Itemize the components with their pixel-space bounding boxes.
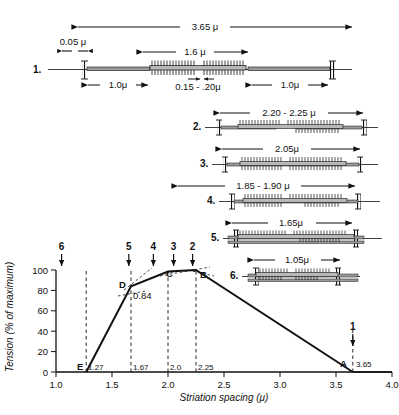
thick-filament-6 — [256, 269, 338, 281]
svg-text:3.5: 3.5 — [329, 379, 342, 390]
guide-value-127: 1.27 — [88, 363, 104, 372]
diagram-index-1: 1. — [33, 64, 42, 75]
dim-label-total-1: 3.65 μ — [192, 21, 219, 32]
x-tick-labels: 1.0 1.5 2.0 2.5 3.0 3.5 4.0 — [49, 379, 398, 390]
guide-value-200: 2.0 — [170, 363, 182, 372]
diagram-index-5: 5. — [211, 232, 220, 243]
svg-text:3: 3 — [171, 241, 177, 252]
svg-text:6: 6 — [59, 241, 65, 252]
sarcomere-diagram-1: 3.65 μ 0.05 μ 1.6 μ 1. — [33, 19, 352, 92]
point-value-D: 0.84 — [133, 290, 152, 301]
svg-text:2.5: 2.5 — [217, 379, 230, 390]
diagram-index-2: 2. — [193, 121, 202, 132]
dim-arrow-total-4: 1.85 - 1.90 μ — [178, 178, 355, 192]
dim-arrow-total-6: 1.05μ — [254, 252, 340, 266]
y-tick-labels: 0 20 40 60 80 100 — [32, 265, 48, 378]
sarcomere-diagram-5: 1.65μ 5. — [211, 215, 382, 247]
dim-label-total-4: 1.85 - 1.90 μ — [236, 180, 290, 191]
diagram-index-4: 4. — [207, 195, 216, 206]
y-axis-label: Tension (% of maximum) — [4, 262, 15, 372]
svg-text:0: 0 — [43, 367, 48, 378]
svg-text:4: 4 — [151, 241, 157, 252]
figure-svg: 3.65 μ 0.05 μ 1.6 μ 1. — [0, 0, 399, 415]
dim-arrow-thin-left-1: 1.0μ — [88, 78, 148, 91]
marker-arrow-6: 6 — [59, 241, 65, 266]
guide-lines — [86, 268, 353, 372]
marker-arrow-2: 2 — [190, 241, 196, 266]
x-ticks — [56, 372, 392, 377]
dim-label-total-2: 2.20 - 2.25 μ — [262, 107, 316, 118]
sarcomere-diagram-4: 1.85 - 1.90 μ 4. — [178, 178, 380, 209]
diagram-index-6: 6. — [230, 270, 239, 281]
dim-arrow-thin-right-1: 1.0μ — [252, 78, 328, 91]
svg-text:20: 20 — [37, 346, 48, 357]
guide-value-225: 2.25 — [198, 363, 214, 372]
tension-length-chart: Tension (% of maximum) 0 20 40 60 80 100 — [4, 241, 399, 403]
tension-curve — [86, 270, 353, 372]
figure-container: 3.65 μ 0.05 μ 1.6 μ 1. — [0, 0, 399, 415]
x-axis-label: Striation spacing (μ) — [180, 392, 269, 403]
svg-text:3.0: 3.0 — [273, 379, 286, 390]
point-label-B: B — [200, 269, 207, 280]
svg-text:2.0: 2.0 — [161, 379, 174, 390]
thick-filament-3 — [240, 157, 346, 170]
dim-label-total-6: 1.05μ — [285, 254, 309, 265]
svg-text:80: 80 — [37, 285, 48, 296]
sarcomere-diagram-3: 2.05μ 3. — [200, 141, 378, 172]
guide-value-167: 1.67 — [133, 363, 149, 372]
dim-label-thick-1: 1.6 μ — [184, 46, 205, 57]
dim-arrow-total-5: 1.65μ — [232, 215, 352, 229]
marker-arrow-4: 4 — [151, 241, 157, 266]
point-label-C: C — [166, 268, 173, 279]
svg-text:1.5: 1.5 — [105, 379, 118, 390]
dim-arrow-zline-1: 0.05 μ — [60, 36, 88, 51]
marker-arrow-5: 5 — [126, 241, 132, 266]
guide-value-365: 3.65 — [356, 360, 372, 369]
marker-arrow-3: 3 — [171, 241, 177, 266]
y-ticks — [51, 270, 56, 372]
dim-label-thin-left-1: 1.0μ — [109, 79, 128, 90]
dim-arrow-thick-1: 1.6 μ — [143, 44, 248, 57]
dim-arrow-overlap-1: 0.15 - .20μ — [175, 79, 221, 92]
dim-label-zline-1: 0.05 μ — [60, 36, 87, 47]
point-label-D: D — [119, 279, 126, 290]
svg-text:5: 5 — [126, 241, 132, 252]
svg-text:60: 60 — [37, 305, 48, 316]
thick-filament-5 — [238, 231, 354, 243]
thick-filament-1 — [150, 61, 246, 76]
sarcomere-diagram-2: 2.20 - 2.25 μ 2. — [193, 105, 378, 135]
dim-arrow-total-2: 2.20 - 2.25 μ — [220, 105, 363, 119]
point-label-E: E — [77, 361, 83, 372]
dim-label-total-3: 2.05μ — [275, 143, 299, 154]
thick-filament-4 — [243, 194, 347, 207]
dim-label-overlap-1: 0.15 - .20μ — [175, 81, 221, 92]
svg-text:1.0: 1.0 — [49, 379, 62, 390]
dim-label-total-5: 1.65μ — [279, 217, 303, 228]
dim-label-thin-right-1: 1.0μ — [281, 79, 300, 90]
svg-text:1: 1 — [350, 321, 356, 332]
dim-arrow-total-1: 3.65 μ — [78, 19, 352, 33]
svg-text:2: 2 — [190, 241, 196, 252]
dim-arrow-total-3: 2.05μ — [222, 141, 360, 155]
svg-text:4.0: 4.0 — [385, 379, 398, 390]
sarcomere-diagram-6: 1.05μ 6. — [230, 252, 360, 285]
diagram-index-3: 3. — [200, 158, 209, 169]
svg-text:40: 40 — [37, 326, 48, 337]
curve-point-labels: E D C B A 0.84 — [77, 268, 347, 372]
marker-arrow-1: 1 — [350, 321, 356, 346]
svg-text:100: 100 — [32, 265, 48, 276]
thick-filament-2 — [238, 120, 343, 133]
point-label-A: A — [340, 358, 347, 369]
